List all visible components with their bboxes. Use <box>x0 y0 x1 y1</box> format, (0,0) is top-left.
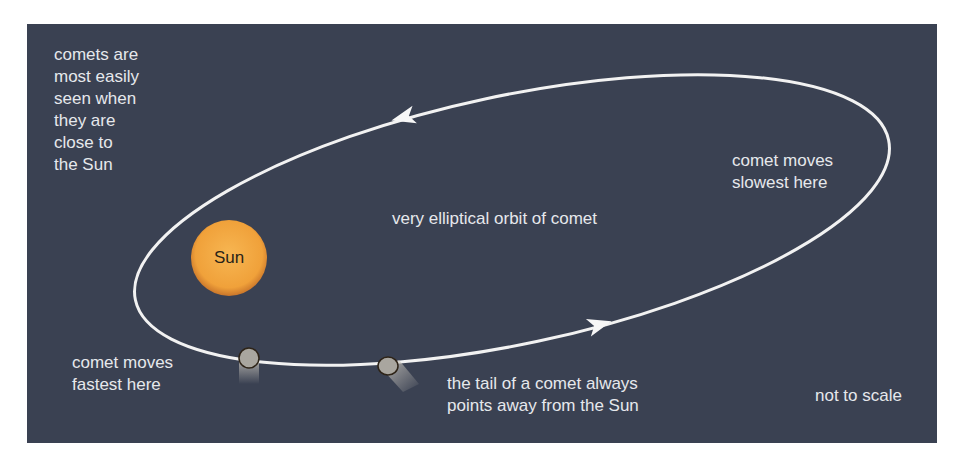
diagram-panel: Sun comets are most easily seen when the… <box>27 24 937 443</box>
scale-note-label: not to scale <box>815 385 902 407</box>
orbit-title-label: very elliptical orbit of comet <box>392 208 597 230</box>
fastest-label: comet moves fastest here <box>72 352 173 396</box>
tail-note-label: the tail of a comet always points away f… <box>447 373 639 417</box>
comet-fast-icon <box>239 348 259 384</box>
visibility-note-label: comets are most easily seen when they ar… <box>54 44 139 176</box>
slowest-label: comet moves slowest here <box>732 150 833 194</box>
sun-label: Sun <box>214 248 244 268</box>
